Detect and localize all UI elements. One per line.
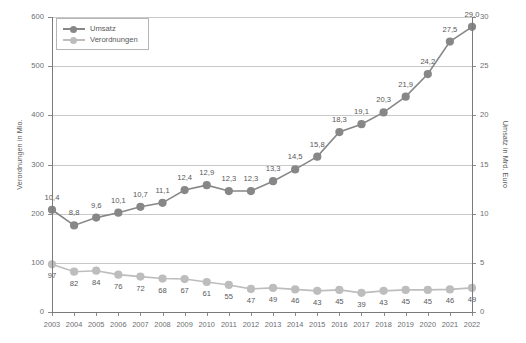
legend-label-verordnungen: Verordnungen xyxy=(90,34,138,45)
data-point[interactable] xyxy=(446,37,454,45)
data-point[interactable] xyxy=(225,187,233,195)
data-point[interactable] xyxy=(269,284,277,292)
legend-swatch-verordnungen xyxy=(63,35,85,44)
data-point[interactable] xyxy=(136,273,144,281)
data-point-label: 18,3 xyxy=(322,115,356,124)
data-point[interactable] xyxy=(357,120,365,128)
data-point[interactable] xyxy=(114,209,122,217)
data-point-label: 14,5 xyxy=(278,152,312,161)
data-point-label: 19,1 xyxy=(344,107,378,116)
data-point[interactable] xyxy=(313,287,321,295)
data-point[interactable] xyxy=(357,289,365,297)
data-point[interactable] xyxy=(291,285,299,293)
data-point-label: 15,8 xyxy=(300,140,334,149)
chart-container: Verordnungen in Mio. Umsatz in Mrd. Euro… xyxy=(0,0,526,343)
data-point[interactable] xyxy=(247,285,255,293)
data-point[interactable] xyxy=(402,93,410,101)
data-point[interactable] xyxy=(335,128,343,136)
data-point[interactable] xyxy=(402,286,410,294)
data-point-label: 13,3 xyxy=(256,164,290,173)
data-point[interactable] xyxy=(70,221,78,229)
data-point[interactable] xyxy=(136,203,144,211)
data-point[interactable] xyxy=(114,271,122,279)
data-point[interactable] xyxy=(181,186,189,194)
legend-item-verordnungen[interactable]: Verordnungen xyxy=(63,34,138,45)
data-point[interactable] xyxy=(181,275,189,283)
chart-legend: Umsatz Verordnungen xyxy=(56,18,149,50)
y-axis-right-line xyxy=(472,17,473,313)
data-point[interactable] xyxy=(379,108,387,116)
data-point-label: 21,9 xyxy=(389,80,423,89)
data-point-label: 8,8 xyxy=(57,208,91,217)
legend-swatch-umsatz xyxy=(63,24,85,33)
data-point[interactable] xyxy=(203,278,211,286)
legend-label-umsatz: Umsatz xyxy=(90,23,116,34)
y-axis-left-line xyxy=(52,17,53,313)
data-point[interactable] xyxy=(92,267,100,275)
data-point-label: 24,2 xyxy=(411,57,445,66)
data-point[interactable] xyxy=(424,286,432,294)
data-point-label: 20,3 xyxy=(367,95,401,104)
data-point[interactable] xyxy=(424,70,432,78)
x-axis-line xyxy=(52,312,473,313)
data-point[interactable] xyxy=(158,199,166,207)
data-point-label: 12,3 xyxy=(234,174,268,183)
data-point[interactable] xyxy=(379,287,387,295)
data-point[interactable] xyxy=(313,153,321,161)
data-point[interactable] xyxy=(269,177,277,185)
data-point[interactable] xyxy=(70,268,78,276)
data-point[interactable] xyxy=(446,285,454,293)
data-point[interactable] xyxy=(247,187,255,195)
data-point[interactable] xyxy=(225,281,233,289)
legend-item-umsatz[interactable]: Umsatz xyxy=(63,23,138,34)
data-point[interactable] xyxy=(291,165,299,173)
data-point[interactable] xyxy=(158,274,166,282)
data-point[interactable] xyxy=(203,181,211,189)
data-point[interactable] xyxy=(92,214,100,222)
data-point[interactable] xyxy=(335,286,343,294)
data-point-label: 11,1 xyxy=(146,186,180,195)
data-point-label: 27,5 xyxy=(433,25,467,34)
